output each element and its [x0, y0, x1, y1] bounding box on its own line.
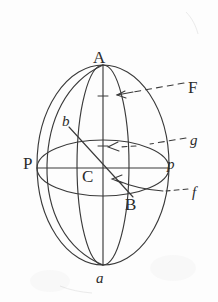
label-equator-right: p	[167, 157, 175, 172]
label-callout-f: f	[192, 185, 196, 200]
callout-leader-g-inner	[120, 146, 136, 147]
label-equator-left: P	[23, 155, 32, 172]
figure-container: A a P p C B b F g f	[0, 0, 218, 302]
label-meridian-arc: b	[62, 114, 70, 129]
label-callout-g: g	[190, 133, 198, 148]
callout-arrow-tip-g	[108, 142, 119, 151]
label-bottom-pole: a	[96, 271, 104, 286]
spheroid-diagram	[0, 0, 218, 302]
label-top-pole: A	[93, 49, 105, 66]
label-callout-F: F	[188, 79, 197, 96]
diagonal-line-CB	[69, 127, 133, 197]
callout-leader-f	[166, 189, 188, 191]
label-center: C	[82, 168, 93, 185]
label-diagonal-end: B	[125, 196, 136, 213]
callout-leader-F	[133, 83, 184, 92]
